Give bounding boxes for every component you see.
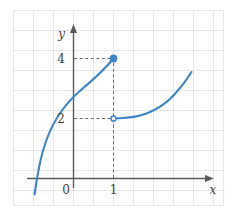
- open-endpoint-marker: [111, 116, 116, 121]
- axes: [27, 30, 208, 188]
- x-axis-arrow: [205, 175, 214, 182]
- y-tick-label-2: 2: [57, 112, 65, 126]
- x-tick-label-0: 0: [62, 183, 70, 197]
- x-tick-label-1: 1: [110, 183, 118, 197]
- x-axis-label: x: [210, 183, 217, 197]
- filled-endpoint-marker: [110, 55, 118, 63]
- y-tick-label-4: 4: [57, 52, 65, 66]
- right-branch-curve-main: [114, 72, 192, 119]
- grid-lines: [13, 10, 224, 206]
- piecewise-function-plot: 4 2 0 1 y x: [0, 0, 236, 216]
- graph-figure: 4 2 0 1 y x x y 4 2 0 1: [0, 0, 236, 216]
- y-axis-arrow: [70, 24, 77, 33]
- y-axis-label: y: [57, 27, 65, 41]
